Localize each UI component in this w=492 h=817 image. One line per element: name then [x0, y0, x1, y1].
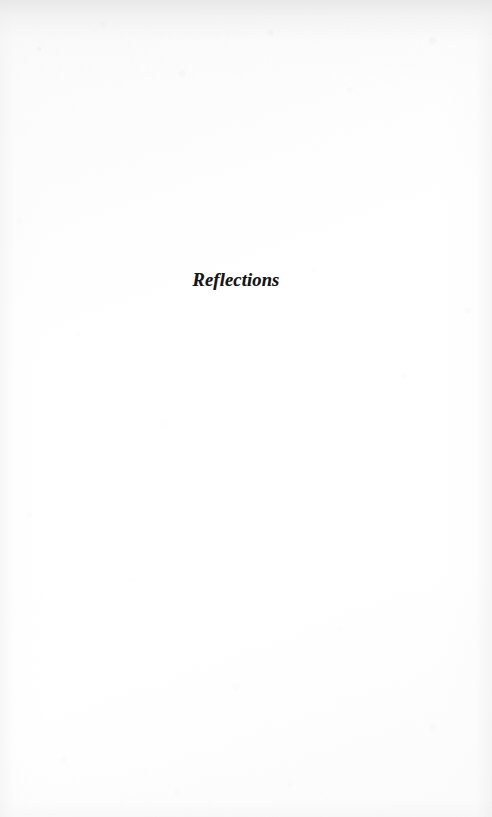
paper-fiber-texture: [0, 0, 492, 817]
section-title: Reflections: [193, 269, 280, 291]
section-title-block: Reflections: [0, 269, 472, 291]
paper-grain-texture: [0, 0, 492, 817]
scanned-page: Reflections: [0, 0, 492, 817]
